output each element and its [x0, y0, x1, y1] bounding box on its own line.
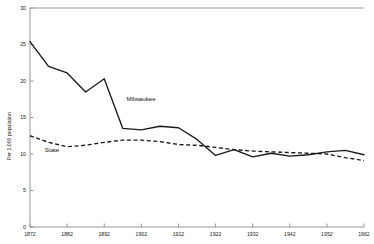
x-tick-label: 1942: [284, 231, 296, 237]
x-tick-label: 1902: [136, 231, 148, 237]
x-tick-label: 1962: [358, 231, 370, 237]
series-line-milwaukee: [30, 42, 364, 157]
y-tick-label: 30: [20, 5, 26, 11]
y-tick-label: 25: [20, 41, 26, 47]
y-axis-title: Per 1,000 population: [6, 112, 12, 160]
plot-frame: [30, 8, 364, 227]
y-tick-label: 15: [20, 114, 26, 120]
y-tick-label: 10: [20, 151, 26, 157]
chart-canvas: 051015202530 187218821892190219121922193…: [0, 0, 374, 244]
line-chart-figure: 051015202530 187218821892190219121922193…: [0, 0, 374, 244]
series-annotations: Milwaukee State: [45, 95, 156, 152]
y-axis: 051015202530: [20, 5, 33, 230]
x-tick-label: 1912: [173, 231, 185, 237]
x-axis: 1872188218921902191219221932194219521962: [24, 224, 370, 238]
y-tick-label: 20: [20, 78, 26, 84]
x-tick-label: 1922: [210, 231, 222, 237]
y-tick-label: 5: [23, 187, 26, 193]
x-tick-label: 1952: [321, 231, 333, 237]
x-tick-label: 1892: [98, 231, 110, 237]
x-tick-label: 1882: [61, 231, 73, 237]
y-tick-label: 0: [23, 224, 26, 230]
series-label-state: State: [45, 146, 60, 153]
x-tick-label: 1872: [24, 231, 36, 237]
data-series-group: [30, 42, 364, 161]
series-label-milwaukee: Milwaukee: [126, 95, 156, 102]
x-tick-label: 1932: [247, 231, 259, 237]
